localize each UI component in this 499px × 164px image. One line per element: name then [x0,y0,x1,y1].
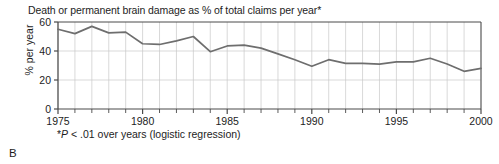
y-axis-tick-label: 20 [39,74,51,86]
y-axis-tick-label: 40 [39,45,51,57]
x-axis-tick-label: 1980 [131,115,155,127]
chart-footnote: *P < .01 over years (logistic regression… [57,128,241,140]
x-axis-tick-label: 1995 [385,115,409,127]
figure-panel-b: Death or permanent brain damage as % of … [0,0,499,164]
panel-letter: B [9,147,17,159]
x-axis-tick-label: 2000 [469,115,493,127]
x-axis-tick-label: 1975 [46,115,70,127]
x-axis-tick-label: 1985 [216,115,240,127]
data-series-line [58,26,481,71]
y-axis-tick-label: 60 [39,16,51,28]
y-axis-tick-label: 0 [45,103,51,115]
x-axis-tick-label: 1990 [300,115,324,127]
footnote-text: < .01 over years (logistic regression) [68,128,240,140]
